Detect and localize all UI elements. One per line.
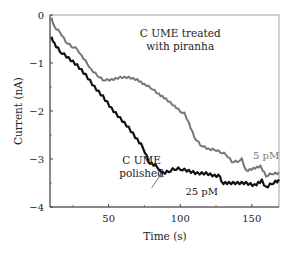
annotations: C UME treatedwith piranhaC UMEpolished5 … [119, 27, 279, 197]
y-tick-label: −1 [29, 58, 44, 69]
y-tick-label: −4 [29, 202, 44, 213]
x-tick-label: 100 [171, 213, 190, 224]
annotation-label: 5 pM [253, 150, 279, 161]
annotation-label: with piranha [146, 40, 214, 52]
annotation-label: C UME treated [140, 27, 221, 39]
y-axis-label: Current (nA) [12, 77, 24, 145]
x-tick-label: 50 [102, 213, 115, 224]
annotation-label: C UME [122, 154, 161, 166]
annotation-label: 25 pM [185, 186, 218, 197]
x-tick-label: 150 [242, 213, 261, 224]
annotation-label: polished [119, 167, 164, 179]
y-tick-label: −2 [29, 106, 44, 117]
x-axis-label: Time (s) [143, 230, 186, 242]
chart: 0−1−2−3−4 50100150 C UME treatedwith pir… [0, 0, 292, 255]
y-tick-label: 0 [38, 10, 44, 21]
y-tick-label: −3 [29, 154, 44, 165]
y-axis-ticks: 0−1−2−3−4 [29, 10, 53, 213]
